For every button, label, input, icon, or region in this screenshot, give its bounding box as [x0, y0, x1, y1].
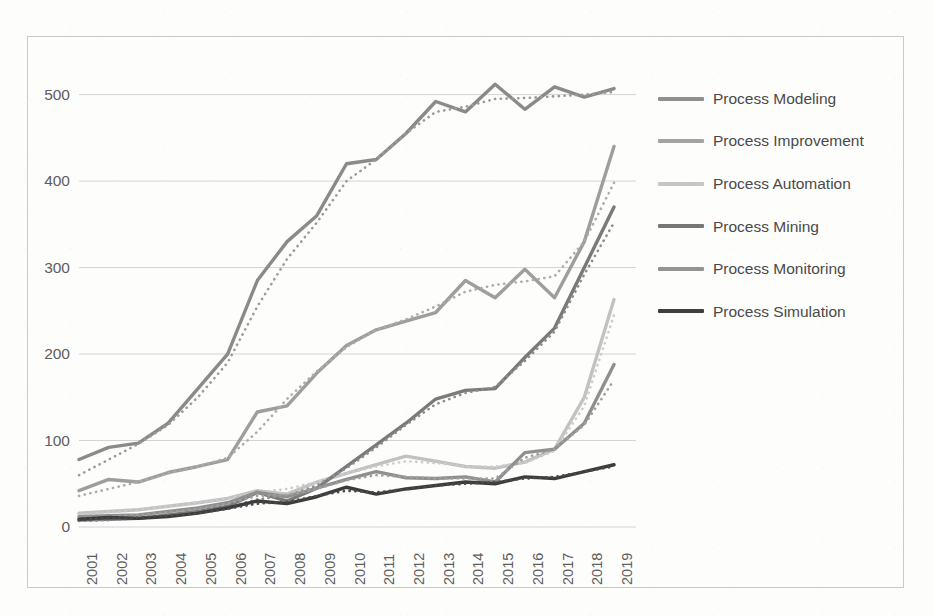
legend-item[interactable]: Process Simulation	[658, 302, 898, 321]
x-tick-label: 2006	[234, 553, 249, 585]
legend-item-label: Process Modeling	[713, 91, 836, 107]
legend-color-swatch	[658, 224, 704, 228]
x-tick-label: 2010	[353, 553, 368, 585]
legend-item[interactable]: Process Improvement	[658, 132, 898, 151]
legend-item[interactable]: Process Mining	[658, 217, 898, 236]
legend-color-swatch	[658, 309, 704, 313]
x-tick-label: 2016	[531, 553, 546, 585]
x-tick-label: 2001	[85, 553, 100, 585]
legend-color-swatch	[658, 267, 704, 271]
x-tick-label: 2019	[620, 553, 635, 585]
legend-color-swatch	[658, 139, 704, 143]
legend-item-label: Process Automation	[713, 176, 851, 192]
legend-item-label: Process Monitoring	[713, 261, 846, 277]
x-tick-label: 2002	[115, 553, 130, 585]
legend-item[interactable]: Process Monitoring	[658, 259, 898, 278]
x-tick-label: 2015	[501, 553, 516, 585]
legend-item-label: Process Mining	[713, 219, 819, 235]
legend: Process ModelingProcess ImprovementProce…	[658, 89, 898, 345]
x-tick-label: 2003	[144, 553, 159, 585]
legend-item-label: Process Simulation	[713, 304, 846, 320]
x-tick-label: 2004	[174, 553, 189, 585]
chart-page: 5004003002001000 20012002200320042005200…	[0, 0, 934, 616]
x-tick-label: 2018	[590, 553, 605, 585]
x-tick-label: 2014	[471, 553, 486, 585]
legend-item[interactable]: Process Automation	[658, 174, 898, 193]
legend-item-label: Process Improvement	[713, 133, 864, 149]
x-tick-label: 2009	[323, 553, 338, 585]
x-tick-label: 2017	[561, 553, 576, 585]
x-tick-label: 2008	[293, 553, 308, 585]
legend-color-swatch	[658, 97, 704, 101]
x-tick-label: 2012	[412, 553, 427, 585]
legend-color-swatch	[658, 182, 704, 186]
legend-item[interactable]: Process Modeling	[658, 89, 898, 108]
x-tick-label: 2011	[382, 554, 397, 585]
x-tick-label: 2007	[263, 553, 278, 585]
x-tick-label: 2013	[442, 553, 457, 585]
x-tick-label: 2005	[204, 553, 219, 585]
